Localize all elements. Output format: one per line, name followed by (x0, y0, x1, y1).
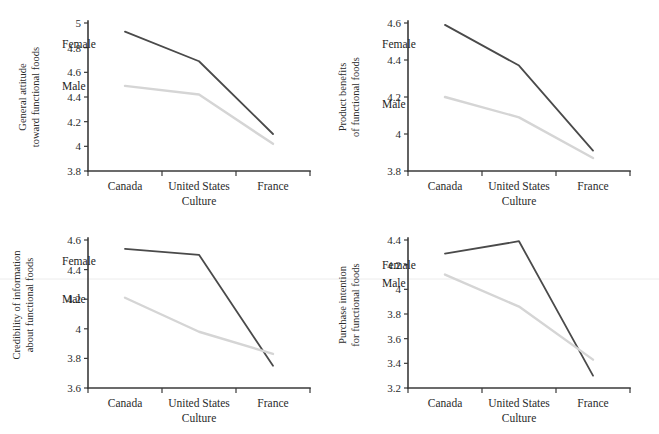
panel-3-yaxis: 3.23.43.63.844.24.4 (387, 234, 408, 394)
panel-1-ytick-label: 4.6 (387, 17, 401, 29)
panel-3-label-female: Female (382, 259, 416, 271)
panel-1-xtick-label: United States (488, 180, 550, 192)
panel-2-ytick-label: 3.6 (67, 382, 81, 394)
panel-general-attitude: General attitude toward functional foods… (0, 0, 330, 217)
panel-2-xtick-label: Canada (108, 397, 142, 409)
panel-1-ytick-label: 4.4 (387, 54, 401, 66)
panel-0-ytick-label: 4.6 (67, 66, 81, 78)
panel-1-label-male: Male (382, 98, 406, 110)
panel-product-benefits-svg: Product benefits of functional foods 3.8… (330, 0, 659, 217)
panel-1-plot: FemaleMale (382, 25, 593, 158)
panel-purchase-intention-svg: Purchase intention for functional foods … (330, 217, 659, 434)
panel-1-xtick-label: Canada (428, 180, 462, 192)
panel-3-label-male: Male (382, 277, 406, 289)
panel-general-attitude-svg: General attitude toward functional foods… (0, 0, 330, 217)
panel-0-ylabel-line2: toward functional foods (30, 47, 41, 147)
panel-3-series-male (445, 275, 593, 360)
panel-0-ytick-label: 3.8 (67, 165, 81, 177)
panel-3-ylabel: Purchase intention for functional foods (337, 263, 361, 346)
panel-2-ytick-label: 4 (76, 323, 82, 335)
panel-credibility: Credibility of information about functio… (0, 217, 330, 434)
panel-1-series-male (445, 97, 593, 158)
panel-0-ylabel: General attitude toward functional foods (17, 47, 41, 147)
panel-0-series-female (125, 32, 273, 134)
panel-3-ytick-label: 3.8 (387, 308, 401, 320)
panel-2-series-male (125, 298, 273, 354)
panel-0-label-male: Male (62, 80, 86, 92)
panel-3-plot: FemaleMale (382, 241, 593, 375)
panel-1-xlabel: Culture (502, 195, 537, 207)
panel-2-xlabel: Culture (182, 412, 217, 424)
panel-0-ylabel-line1: General attitude (17, 63, 28, 131)
panel-2-ytick-label: 3.8 (67, 352, 81, 364)
panel-0-label-female: Female (62, 38, 96, 50)
panel-1-ylabel: Product benefits of functional foods (337, 57, 361, 137)
panel-1-ylabel-line2: of functional foods (350, 57, 361, 137)
panel-3-xtick-label: United States (488, 397, 550, 409)
panel-0-ytick-label: 4.4 (67, 91, 81, 103)
panel-3-ytick-label: 3.6 (387, 333, 401, 345)
panel-0-series-male (125, 86, 273, 144)
panel-0-xaxis: CanadaUnited StatesFrance (88, 171, 310, 192)
panel-1-xtick-label: France (577, 180, 608, 192)
panel-3-ylabel-line1: Purchase intention (337, 265, 348, 344)
panel-2-ylabel-line1: Credibility of information (11, 250, 22, 360)
panel-1-xaxis: CanadaUnited StatesFrance (408, 171, 630, 192)
panel-1-label-female: Female (382, 38, 416, 50)
panel-1-ytick-label: 4 (396, 128, 402, 140)
panel-2-xaxis: CanadaUnited StatesFrance (88, 388, 310, 409)
panel-0-xtick-label: United States (168, 180, 230, 192)
panel-0-ytick-label: 5 (76, 17, 82, 29)
panel-3-ylabel-line2: for functional foods (350, 263, 361, 346)
panel-3-xaxis: CanadaUnited StatesFrance (408, 388, 630, 409)
panel-0-xtick-label: France (257, 180, 288, 192)
panel-2-ytick-label: 4.6 (67, 234, 81, 246)
panel-2-xtick-label: France (257, 397, 288, 409)
panel-2-label-male: Male (62, 293, 86, 305)
panel-credibility-svg: Credibility of information about functio… (0, 217, 330, 434)
panel-product-benefits: Product benefits of functional foods 3.8… (330, 0, 659, 217)
panel-3-ytick-label: 3.4 (387, 357, 401, 369)
panel-3-xtick-label: Canada (428, 397, 462, 409)
panel-2-ylabel-line2: about functional foods (24, 258, 35, 352)
panel-1-series-female (445, 25, 593, 151)
panel-2-xtick-label: United States (168, 397, 230, 409)
panel-3-ytick-label: 3.2 (387, 382, 401, 394)
panel-0-ytick-label: 4 (76, 140, 82, 152)
panel-3-xtick-label: France (577, 397, 608, 409)
figure-multi-panel-chart: General attitude toward functional foods… (0, 0, 659, 434)
panel-0-xlabel: Culture (182, 195, 217, 207)
panel-1-ytick-label: 3.8 (387, 165, 401, 177)
panel-purchase-intention: Purchase intention for functional foods … (330, 217, 659, 434)
panel-3-ytick-label: 4.4 (387, 234, 401, 246)
panel-1-ylabel-line1: Product benefits (337, 63, 348, 132)
panel-0-xtick-label: Canada (108, 180, 142, 192)
panel-0-ytick-label: 4.2 (67, 116, 81, 128)
panel-2-ylabel: Credibility of information about functio… (11, 250, 35, 360)
panel-3-series-female (445, 241, 593, 375)
panel-0-plot: FemaleMale (62, 32, 273, 144)
panel-2-plot: FemaleMale (62, 249, 273, 366)
panel-2-label-female: Female (62, 255, 96, 267)
panel-3-xlabel: Culture (502, 412, 537, 424)
